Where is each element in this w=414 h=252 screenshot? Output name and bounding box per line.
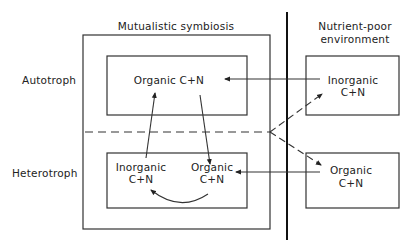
dashed-arrow-to-env-inorganic: [270, 94, 322, 132]
node-env-organic-line1: Organic: [330, 164, 372, 176]
curved-arrow-mineralization: [151, 190, 208, 203]
row-label-heterotroph: Heterotroph: [12, 167, 78, 179]
header-environment-line1: Nutrient-poor: [318, 20, 391, 32]
node-heterotroph-organic-line2: C+N: [200, 173, 225, 185]
node-heterotroph-inorganic-line2: C+N: [129, 173, 154, 185]
node-env-inorganic-line1: Inorganic: [328, 74, 379, 86]
dashed-arrow-to-env-organic: [270, 132, 321, 165]
node-heterotroph-organic-line1: Organic: [191, 161, 233, 173]
row-label-autotroph: Autotroph: [22, 74, 76, 86]
node-env-inorganic-line2: C+N: [341, 86, 366, 98]
header-environment-line2: environment: [320, 33, 389, 45]
header-symbiosis: Mutualistic symbiosis: [118, 20, 234, 32]
node-heterotroph-inorganic-line1: Inorganic: [116, 161, 167, 173]
arrow-inorganic-up-to-autotroph: [146, 93, 155, 158]
node-autotroph-organic: Organic C+N: [134, 74, 204, 86]
node-env-organic-line2: C+N: [339, 177, 364, 189]
arrow-autotroph-down-to-organic: [200, 95, 210, 164]
